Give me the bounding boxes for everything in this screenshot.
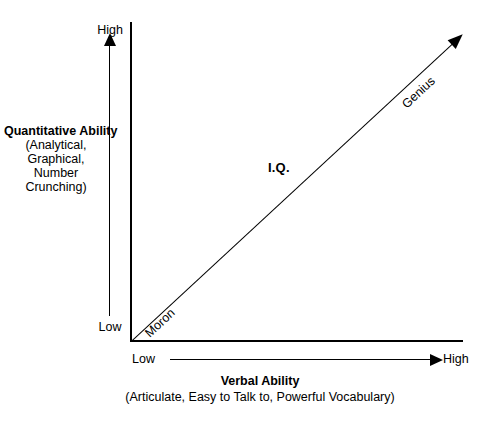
x-range-arrow-head-icon: [430, 354, 443, 366]
iq-trend-line: [131, 38, 459, 342]
x-axis-title-main: Verbal Ability: [221, 374, 300, 388]
y-axis-title-sub-line-2: Number: [4, 166, 108, 180]
x-axis-low-label: Low: [132, 352, 155, 366]
y-axis-title-sub-line-0: (Analytical,: [4, 138, 108, 152]
x-axis-high-label: High: [443, 352, 469, 366]
moron-annotation: Moron: [142, 306, 178, 340]
x-axis-title-sub: (Articulate, Easy to Talk to, Powerful V…: [60, 390, 460, 404]
x-axis-title: Verbal Ability (Articulate, Easy to Talk…: [60, 374, 460, 404]
y-axis-low-label: Low: [86, 320, 134, 334]
y-axis-title-main: Quantitative Ability: [4, 124, 108, 138]
y-axis-line: [130, 22, 132, 342]
x-axis-line: [130, 340, 463, 342]
iq-line-label: I.Q.: [268, 160, 290, 175]
y-axis-title-sub-line-1: Graphical,: [4, 152, 108, 166]
iq-chart-figure: High Low Low High Quantitative Ability (…: [0, 0, 480, 422]
x-range-arrow-shaft: [170, 359, 434, 360]
y-axis-high-label: High: [86, 23, 134, 37]
genius-annotation: Genius: [399, 74, 438, 111]
y-axis-title: Quantitative Ability (Analytical, Graphi…: [4, 124, 108, 194]
y-range-arrow-shaft: [109, 44, 110, 316]
y-axis-title-sub-line-3: Crunching): [4, 180, 108, 194]
